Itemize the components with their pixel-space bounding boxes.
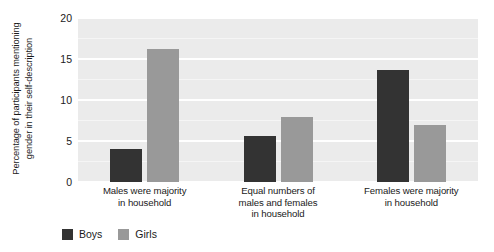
y-axis-tick-label: 10	[44, 95, 76, 106]
gridline-minor	[78, 79, 478, 80]
x-axis-category-label-line: in household	[211, 208, 344, 220]
bar-girls-3	[414, 125, 446, 182]
gridline-major	[78, 99, 478, 100]
plot-panel	[78, 18, 478, 182]
gridline-minor	[78, 120, 478, 121]
bar-chart-figure: Percentage of participants mentioning ge…	[0, 0, 494, 252]
y-axis-tick-label: 20	[44, 13, 76, 24]
x-axis-category-label-line: in household	[78, 197, 211, 209]
legend-swatch-boys-icon	[62, 229, 73, 240]
x-axis-category-label-1: Males were majorityin household	[78, 185, 211, 208]
y-axis-title-line-2: gender in their self-description	[22, 22, 35, 174]
bar-girls-1	[147, 49, 179, 182]
x-axis-category-label-line: Males were majority	[78, 185, 211, 197]
x-axis-category-label-2: Equal numbers ofmales and femalesin hous…	[211, 185, 344, 220]
legend-swatch-girls-icon	[118, 229, 129, 240]
y-axis-tick-label: 15	[44, 54, 76, 65]
gridline-minor	[78, 38, 478, 39]
x-axis-category-label-line: males and females	[211, 197, 344, 209]
y-axis-title-line-1: Percentage of participants mentioning	[10, 22, 23, 174]
legend-item-boys[interactable]: Boys	[62, 229, 102, 240]
x-axis-category-label-line: Females were majority	[345, 185, 478, 197]
bar-boys-1	[110, 149, 142, 182]
y-axis-tick-label: 5	[44, 136, 76, 147]
legend-label: Girls	[135, 229, 157, 240]
bar-girls-2	[281, 117, 313, 182]
x-axis-category-label-line: Equal numbers of	[211, 185, 344, 197]
chart-legend: BoysGirls	[62, 229, 157, 240]
bar-boys-2	[244, 136, 276, 182]
x-axis-category-label-3: Females were majorityin household	[345, 185, 478, 208]
bar-boys-3	[377, 70, 409, 182]
y-axis-title: Percentage of participants mentioning ge…	[2, 0, 42, 196]
gridline-major	[78, 18, 478, 19]
x-axis-category-labels: Males were majorityin householdEqual num…	[78, 185, 478, 225]
legend-label: Boys	[79, 229, 102, 240]
legend-item-girls[interactable]: Girls	[118, 229, 157, 240]
y-axis-tick-label: 0	[44, 177, 76, 188]
y-axis-tick-labels: 05101520	[44, 0, 76, 252]
gridline-major	[78, 58, 478, 59]
x-axis-category-label-line: in household	[345, 197, 478, 209]
